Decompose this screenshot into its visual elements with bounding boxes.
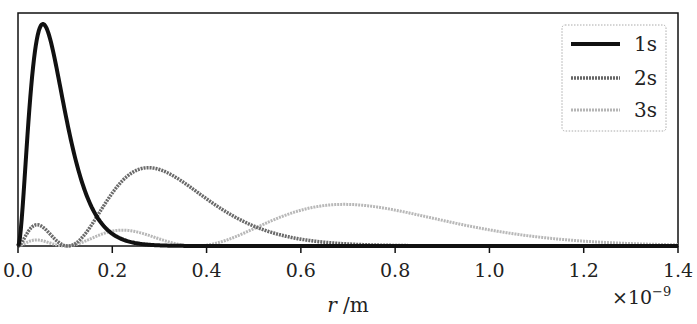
- x-axis-ticks: 0.00.20.40.60.81.01.21.4: [3, 246, 693, 281]
- curve-2s: [18, 168, 678, 246]
- legend-label-3s: 3s: [634, 98, 657, 122]
- x-tick-label: 1.4: [663, 259, 693, 281]
- legend-label-2s: 2s: [634, 66, 657, 90]
- x-tick-label: 0.2: [97, 259, 127, 281]
- x-tick-label: 1.0: [474, 259, 504, 281]
- x-tick-label: 0.6: [286, 259, 316, 281]
- x-tick-label: 0.8: [380, 259, 410, 281]
- radial-distribution-chart: 0.00.20.40.60.81.01.21.4 r /m ×10−9 1s 2…: [0, 0, 697, 324]
- x-tick-label: 1.2: [569, 259, 599, 281]
- legend-label-1s: 1s: [634, 32, 657, 56]
- curve-3s: [18, 204, 678, 246]
- legend: 1s 2s 3s: [562, 25, 666, 131]
- x-axis-label: r /m: [327, 293, 369, 317]
- x-tick-label: 0.4: [191, 259, 221, 281]
- x-axis-multiplier: ×10−9: [612, 284, 671, 308]
- x-tick-label: 0.0: [3, 259, 33, 281]
